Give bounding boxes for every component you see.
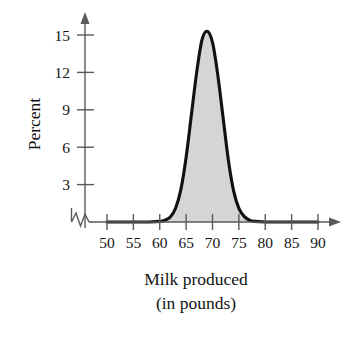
x-tick-label-90: 90: [310, 234, 326, 251]
y-tick-labels: 3691215: [55, 27, 71, 194]
x-tick-labels: 505560657075808590: [99, 234, 326, 251]
y-tick-label-15: 15: [55, 27, 71, 44]
x-axis-break-zigzag: [72, 213, 90, 226]
x-tick-label-55: 55: [126, 234, 142, 251]
y-tick-label-9: 9: [62, 101, 70, 118]
y-axis-arrowhead: [81, 12, 90, 24]
chart-svg: 505560657075808590 3691215 Milk produced…: [0, 0, 354, 338]
x-tick-label-65: 65: [178, 234, 194, 251]
y-axis: [77, 12, 94, 228]
x-tick-label-75: 75: [231, 234, 247, 251]
x-tick-label-80: 80: [258, 234, 274, 251]
x-axis-title-line2: (in pounds): [156, 293, 236, 313]
y-axis-title: Percent: [24, 98, 44, 151]
x-tick-label-50: 50: [99, 234, 115, 251]
density-curve-chart: 505560657075808590 3691215 Milk produced…: [0, 0, 354, 338]
y-tick-label-12: 12: [55, 64, 71, 81]
y-tick-label-6: 6: [62, 139, 70, 156]
x-tick-label-70: 70: [205, 234, 221, 251]
x-axis-title-line1: Milk produced: [144, 269, 248, 289]
y-tick-label-3: 3: [62, 176, 70, 193]
x-tick-label-60: 60: [152, 234, 168, 251]
density-fill-area: [107, 31, 318, 222]
x-tick-label-85: 85: [284, 234, 300, 251]
x-axis-arrowhead: [329, 218, 341, 227]
